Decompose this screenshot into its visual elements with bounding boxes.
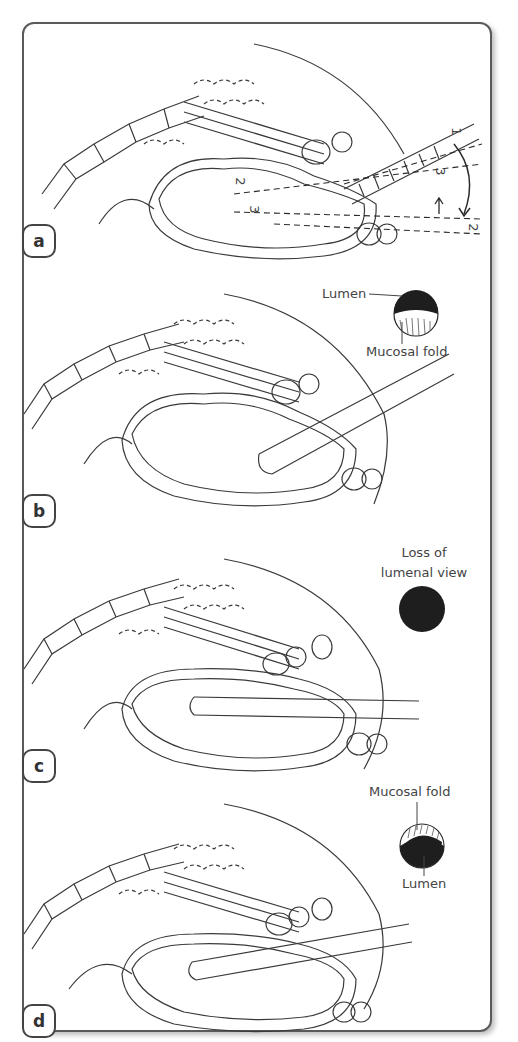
inner-mark-2: 2 <box>233 177 248 185</box>
anatomy-illustration-b <box>24 274 494 529</box>
mucosal-fold-label-d: Mucosal fold <box>369 784 450 799</box>
panel-d: Mucosal fold Lumen d <box>24 784 494 1034</box>
panel-label-d: d <box>22 1004 56 1038</box>
anatomy-illustration-a <box>24 24 494 264</box>
lumen-label-d: Lumen <box>402 876 446 891</box>
endoscopic-view-c <box>399 586 445 632</box>
inner-mark-3: 3 <box>247 205 262 213</box>
panel-label-a: a <box>22 224 56 258</box>
loss-of-label-line2: lumenal view <box>369 563 479 583</box>
angle-mark-2: 2 <box>466 223 481 231</box>
lumen-label-b: Lumen <box>322 286 366 301</box>
loss-of-label-line1: Loss of <box>369 543 479 563</box>
panel-label-b: b <box>22 494 56 528</box>
mucosal-fold-label-b: Mucosal fold <box>366 344 447 359</box>
panel-label-c: c <box>22 749 56 783</box>
endoscopic-view-b <box>369 290 438 344</box>
panel-a: 1 2 3 2 3 a <box>24 24 494 264</box>
angle-mark-1: 1 <box>449 127 464 135</box>
panel-c: Loss of lumenal view c <box>24 529 494 784</box>
panel-b: Lumen Mucosal fold b <box>24 274 494 529</box>
angle-mark-3: 3 <box>433 167 448 175</box>
figure-frame: 1 2 3 2 3 a <box>22 22 492 1032</box>
anatomy-illustration-d <box>24 784 494 1034</box>
endoscopic-view-d <box>400 802 444 876</box>
